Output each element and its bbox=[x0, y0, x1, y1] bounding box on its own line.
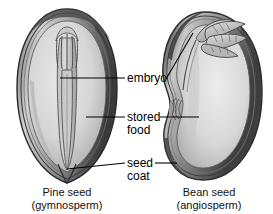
pine-seed-illustration bbox=[17, 9, 117, 183]
caption-pine-line2: (gymnosperm) bbox=[8, 199, 126, 212]
caption-pine-line1: Pine seed bbox=[43, 186, 92, 198]
caption-bean-line2: (angiosperm) bbox=[150, 199, 268, 212]
label-seed-coat-line1: seed bbox=[127, 156, 153, 170]
seed-comparison-figure: embryo stored food seed coat Pine seed (… bbox=[0, 0, 273, 214]
label-embryo-text: embryo bbox=[127, 71, 167, 85]
caption-pine-seed: Pine seed (gymnosperm) bbox=[8, 186, 126, 211]
caption-bean-seed: Bean seed (angiosperm) bbox=[150, 186, 268, 211]
caption-bean-line1: Bean seed bbox=[183, 186, 236, 198]
label-embryo: embryo bbox=[127, 72, 167, 85]
label-stored-food: stored food bbox=[127, 111, 160, 136]
label-seed-coat-line2: coat bbox=[127, 170, 153, 183]
bean-seed-illustration bbox=[163, 12, 262, 180]
label-stored-food-line1: stored bbox=[127, 110, 160, 124]
label-seed-coat: seed coat bbox=[127, 157, 153, 182]
label-stored-food-line2: food bbox=[127, 124, 160, 137]
